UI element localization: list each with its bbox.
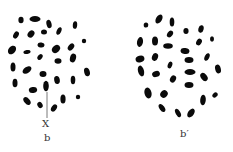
chromosome bbox=[185, 82, 194, 88]
chromosome bbox=[195, 38, 203, 47]
chromosome bbox=[135, 55, 145, 64]
chromosome bbox=[23, 49, 31, 54]
chromosome bbox=[55, 26, 62, 35]
chromosome bbox=[66, 42, 75, 51]
chromosome bbox=[71, 76, 76, 84]
chromosome bbox=[50, 43, 61, 54]
chromosome bbox=[72, 21, 77, 29]
chromosome bbox=[82, 39, 86, 43]
chromosome bbox=[13, 79, 18, 88]
chromosome bbox=[174, 108, 182, 118]
chromosome bbox=[137, 65, 146, 77]
chromosome bbox=[40, 71, 47, 77]
chromosome bbox=[151, 70, 161, 78]
chromosome bbox=[50, 103, 59, 112]
chromosome bbox=[200, 94, 207, 105]
chromosome bbox=[83, 67, 91, 77]
chromosome bbox=[157, 103, 166, 113]
chromosome bbox=[26, 29, 36, 39]
chromosome bbox=[21, 65, 33, 76]
chromosome bbox=[76, 95, 80, 99]
chromosome bbox=[30, 16, 41, 22]
chromosome bbox=[43, 81, 49, 91]
chromosome bbox=[180, 47, 190, 54]
chromosome bbox=[183, 28, 188, 34]
chromosome bbox=[159, 89, 170, 100]
chromosome bbox=[169, 74, 178, 83]
chromosome bbox=[22, 96, 32, 106]
panel-label-b-prime: b′ bbox=[180, 129, 189, 139]
x-chromosome-label: X bbox=[42, 119, 49, 129]
chromosome bbox=[154, 13, 164, 25]
chromosome-figure bbox=[0, 0, 233, 152]
chromosome bbox=[12, 30, 20, 39]
chromosome bbox=[143, 87, 153, 99]
chromosome bbox=[198, 25, 205, 34]
chromosome bbox=[28, 86, 37, 93]
chromosome bbox=[167, 61, 174, 69]
chromosome bbox=[18, 17, 23, 23]
chromosome bbox=[211, 91, 218, 98]
chromosome bbox=[41, 30, 47, 35]
chromosome bbox=[203, 52, 211, 61]
chromosome bbox=[199, 72, 209, 83]
chromosome bbox=[214, 64, 222, 74]
chromosome bbox=[45, 19, 52, 28]
chromosome bbox=[185, 69, 196, 75]
chromosome bbox=[185, 57, 194, 63]
chromosome bbox=[186, 107, 197, 119]
chromosome bbox=[210, 36, 214, 41]
chromosome bbox=[36, 101, 44, 109]
chromosome bbox=[152, 37, 158, 46]
chromosome bbox=[36, 53, 43, 61]
panel-label-b: b bbox=[44, 133, 50, 143]
chromosome bbox=[151, 52, 159, 62]
chromosome bbox=[6, 44, 18, 56]
chromosome-spread-b-prime bbox=[135, 13, 222, 119]
chromosome-spread-b bbox=[6, 16, 91, 113]
chromosome bbox=[170, 18, 175, 27]
chromosome bbox=[54, 76, 61, 85]
chromosome bbox=[163, 43, 173, 48]
chromosome bbox=[144, 22, 149, 27]
chromosome bbox=[136, 37, 144, 48]
chromosome bbox=[55, 58, 62, 64]
chromosome bbox=[60, 95, 65, 104]
chromosome bbox=[69, 53, 77, 63]
chromosome bbox=[166, 29, 175, 38]
chromosome bbox=[37, 42, 45, 48]
chromosome bbox=[11, 63, 16, 72]
